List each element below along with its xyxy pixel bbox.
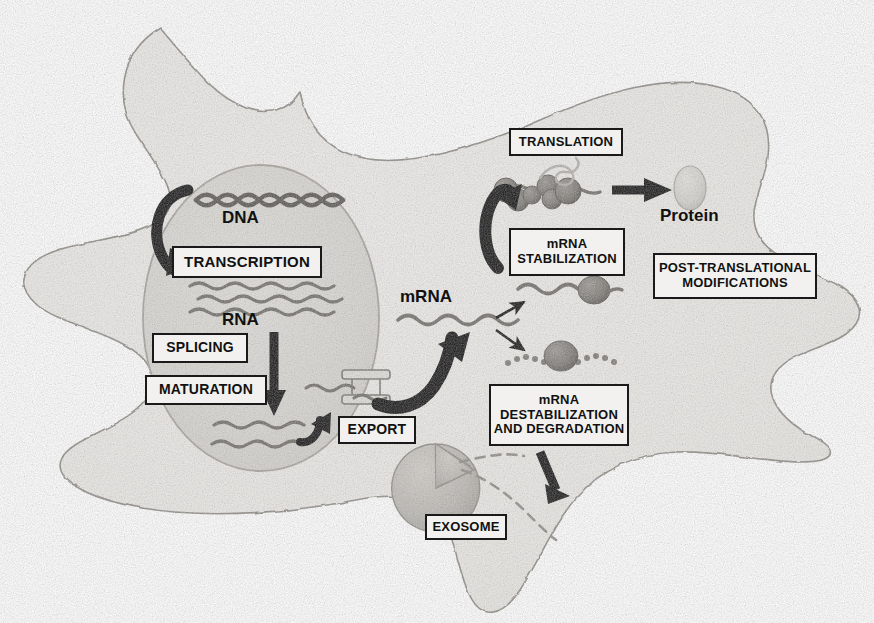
label-box-transcription[interactable]: TRANSCRIPTION xyxy=(172,246,322,278)
label-box-maturation[interactable]: MATURATION xyxy=(145,375,267,405)
label-box-splicing[interactable]: SPLICING xyxy=(152,333,248,363)
protein-ellipse xyxy=(674,166,706,210)
cell-diagram-canvas: TRANSCRIPTION SPLICING MATURATION EXPORT… xyxy=(0,0,874,623)
label-box-export[interactable]: EXPORT xyxy=(338,416,416,444)
label-box-mrna-destabilization[interactable]: mRNA DESTABILIZATION AND DEGRADATION xyxy=(489,384,629,446)
label-box-mrna-stabilization[interactable]: mRNA STABILIZATION xyxy=(509,228,625,276)
label-box-translation[interactable]: TRANSLATION xyxy=(509,128,623,156)
label-box-exosome[interactable]: EXOSOME xyxy=(425,514,507,540)
label-box-post-translational-modifications[interactable]: POST-TRANSLATIONAL MODIFICATIONS xyxy=(653,253,817,299)
label-protein: Protein xyxy=(660,206,719,226)
label-mrna: mRNA xyxy=(400,287,452,307)
label-rna: RNA xyxy=(222,310,259,330)
label-dna: DNA xyxy=(222,208,259,228)
